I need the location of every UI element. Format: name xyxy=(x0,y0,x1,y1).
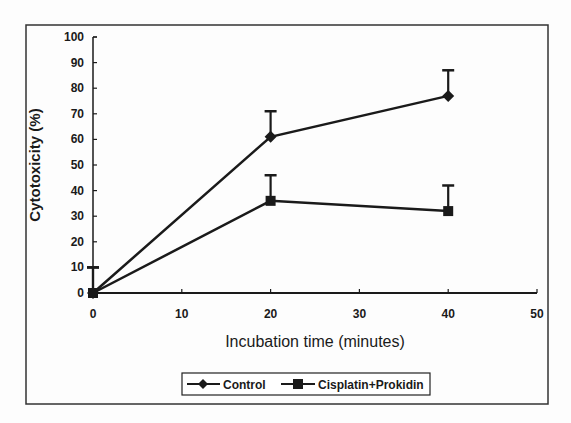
legend: Control Cisplatin+Prokidin xyxy=(182,373,430,395)
series-cisplatin-prokidin xyxy=(87,175,454,298)
y-tick-label: 10 xyxy=(71,260,85,274)
square-marker-icon xyxy=(293,379,303,389)
square-marker-icon xyxy=(266,196,276,206)
y-tick-label: 20 xyxy=(71,235,85,249)
y-tick-label: 90 xyxy=(71,56,85,70)
x-tick-label: 50 xyxy=(530,307,544,321)
series-group xyxy=(87,70,454,299)
line-chart: 010203040506070809010001020304050 Cytoto… xyxy=(0,0,571,423)
square-marker-icon xyxy=(443,206,453,216)
axes: 010203040506070809010001020304050 xyxy=(64,30,544,321)
y-axis-title: Cytotoxicity (%) xyxy=(26,108,43,221)
x-axis-title: Incubation time (minutes) xyxy=(225,333,405,350)
diamond-marker-icon xyxy=(442,90,454,102)
legend-label-cisplatin: Cisplatin+Prokidin xyxy=(318,378,424,392)
x-tick-label: 30 xyxy=(353,307,367,321)
x-tick-label: 0 xyxy=(90,307,97,321)
y-tick-label: 30 xyxy=(71,209,85,223)
y-tick-label: 100 xyxy=(64,30,84,44)
x-tick-label: 20 xyxy=(264,307,278,321)
y-tick-label: 60 xyxy=(71,132,85,146)
y-tick-label: 0 xyxy=(77,286,84,300)
x-tick-label: 10 xyxy=(175,307,189,321)
y-tick-label: 70 xyxy=(71,107,85,121)
square-marker-icon xyxy=(88,288,98,298)
y-tick-label: 50 xyxy=(71,158,85,172)
x-tick-label: 40 xyxy=(442,307,456,321)
y-tick-label: 80 xyxy=(71,81,85,95)
legend-label-control: Control xyxy=(223,378,266,392)
y-tick-label: 40 xyxy=(71,184,85,198)
